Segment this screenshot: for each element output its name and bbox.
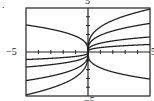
plot-area bbox=[0, 0, 154, 101]
